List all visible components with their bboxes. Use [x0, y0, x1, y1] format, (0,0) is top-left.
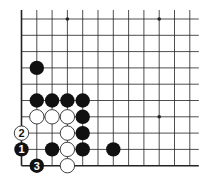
black-stone — [76, 142, 90, 156]
white-stone — [45, 110, 59, 124]
black-stone — [60, 93, 74, 107]
black-stone-icon — [76, 142, 90, 156]
black-stone-icon — [60, 93, 74, 107]
black-stone-icon — [30, 61, 44, 75]
black-stone — [76, 110, 90, 124]
white-stone-icon — [30, 110, 44, 124]
black-stone-move-3: 3 — [30, 159, 44, 173]
black-stone — [45, 142, 59, 156]
black-stone — [76, 93, 90, 107]
white-stone-icon — [45, 110, 59, 124]
move-number-label: 3 — [34, 160, 40, 172]
black-stone-icon — [30, 93, 44, 107]
move-number-label: 2 — [18, 127, 24, 139]
star-point-icon — [66, 17, 70, 21]
white-stone-icon — [60, 110, 74, 124]
white-stone-icon — [60, 142, 74, 156]
black-stone — [76, 126, 90, 140]
board-grid — [22, 10, 199, 166]
black-stone-icon — [106, 142, 120, 156]
black-stone-icon — [76, 126, 90, 140]
black-stone-icon — [76, 110, 90, 124]
white-stone — [60, 159, 74, 173]
white-stone-move-2: 2 — [14, 126, 28, 140]
black-stone — [30, 93, 44, 107]
white-stone-icon — [60, 126, 74, 140]
white-stone — [60, 126, 74, 140]
black-stone-icon — [76, 93, 90, 107]
white-stone-icon — [60, 159, 74, 173]
go-board: 213 — [0, 0, 214, 183]
black-stone-icon — [45, 142, 59, 156]
white-stone — [60, 110, 74, 124]
black-stone — [30, 61, 44, 75]
black-stone — [106, 142, 120, 156]
black-stone-move-1: 1 — [14, 142, 28, 156]
white-stone — [30, 110, 44, 124]
star-point-icon — [157, 115, 161, 119]
black-stone — [45, 93, 59, 107]
move-number-label: 1 — [18, 143, 24, 155]
black-stone-icon — [45, 93, 59, 107]
white-stone — [60, 142, 74, 156]
star-point-icon — [157, 17, 161, 21]
